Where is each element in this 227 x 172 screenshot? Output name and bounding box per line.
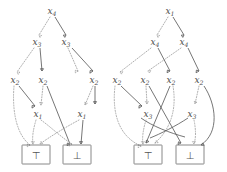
right-bdd-group: ⊤ ⊥ x1 x4 x4 x2 x2 x2 x2 x3 x3 bbox=[112, 6, 214, 164]
edge-high-R-a-R-e bbox=[158, 48, 170, 71]
node-L-a: x3 bbox=[32, 37, 41, 48]
arrowhead-low-R-b-R-d bbox=[148, 71, 151, 74]
node-R-r: x1 bbox=[165, 6, 174, 17]
node-R-d: x2 bbox=[140, 75, 149, 86]
edge-low-L-e-L-g bbox=[85, 86, 93, 105]
arrowhead-high-L-c-L-f bbox=[32, 105, 35, 108]
arrowhead-high-L-b-L-e bbox=[90, 71, 93, 74]
node-R-f: x2 bbox=[194, 75, 203, 86]
arrowhead-low-R-h-R-F bbox=[192, 142, 195, 144]
arrowhead-low-R-r-R-a bbox=[157, 35, 160, 37]
edge-high-R-c-R-g bbox=[121, 86, 142, 106]
arrowhead-high-R-c-R-g bbox=[139, 106, 142, 109]
edge-low-L-a-L-c bbox=[17, 48, 34, 72]
edge-high-L-b-L-e bbox=[72, 48, 93, 71]
edge-low-R-g-R-T bbox=[143, 120, 146, 144]
edge-low-R-h-R-F bbox=[194, 120, 196, 144]
edge-low-R-c-R-T bbox=[114, 86, 141, 146]
left-terminal-false-glyph: ⊥ bbox=[73, 150, 82, 161]
edge-low-L-f-L-T bbox=[33, 120, 36, 144]
arrowhead-high-R-a-R-e bbox=[167, 70, 170, 73]
edge-high-R-b-R-f bbox=[188, 48, 199, 71]
edge-low-L-r-L-a bbox=[39, 17, 50, 35]
edge-high-L-c-L-f bbox=[19, 86, 35, 106]
arrowhead-low-L-b-L-d bbox=[75, 70, 78, 73]
node-L-e: x2 bbox=[89, 75, 98, 86]
node-R-h: x3 bbox=[187, 109, 196, 120]
left-bdd-group: ⊤ ⊥ x4 x3 x3 x2 x2 x2 x1 x1 bbox=[10, 6, 98, 164]
edge-high-R-f-R-F bbox=[201, 86, 214, 145]
edge-high-L-g-L-F bbox=[81, 120, 83, 144]
edge-high-R-r-R-b bbox=[173, 17, 184, 35]
node-L-d: x2 bbox=[38, 75, 47, 86]
node-L-c: x2 bbox=[10, 75, 19, 86]
edge-low-L-b-L-d bbox=[68, 48, 78, 71]
node-R-g: x3 bbox=[143, 109, 152, 120]
node-R-e: x2 bbox=[166, 75, 175, 86]
right-terminal-true-glyph: ⊤ bbox=[144, 150, 153, 161]
edge-low-L-d-L-f bbox=[41, 86, 43, 105]
node-R-c: x2 bbox=[112, 75, 121, 86]
node-L-r: x4 bbox=[47, 6, 56, 17]
edge-low-R-b-R-d bbox=[148, 48, 181, 71]
right-terminal-false-glyph: ⊥ bbox=[186, 150, 195, 161]
edge-high-L-d-L-F bbox=[47, 86, 70, 144]
edge-low-R-f-R-h bbox=[195, 86, 199, 104]
arrowhead-low-L-r-L-a bbox=[39, 35, 42, 37]
edge-high-L-r-L-b bbox=[55, 17, 66, 35]
right-node-labels: x1 x4 x4 x2 x2 x2 x2 x3 x3 bbox=[112, 6, 203, 120]
node-L-f: x1 bbox=[33, 109, 42, 120]
arrowhead-high-R-e-R-T bbox=[146, 140, 149, 143]
edge-high-R-g-R-F bbox=[141, 118, 185, 137]
arrowhead-low-L-c-L-T bbox=[27, 144, 30, 147]
edge-low-R-a-R-c bbox=[120, 48, 151, 72]
left-terminal-true-glyph: ⊤ bbox=[32, 150, 41, 161]
node-L-b: x3 bbox=[61, 37, 70, 48]
bdd-canvas: ⊤ ⊥ x4 x3 x3 x2 x2 x2 x1 x1 bbox=[0, 0, 227, 172]
node-L-g: x1 bbox=[77, 109, 86, 120]
edge-low-L-c-L-T bbox=[14, 86, 30, 145]
arrowhead-low-L-a-L-c bbox=[17, 72, 20, 74]
node-R-a: x4 bbox=[150, 37, 159, 48]
edge-low-R-r-R-a bbox=[157, 17, 168, 35]
node-R-b: x4 bbox=[179, 37, 188, 48]
bdd-figure: ⊤ ⊥ x4 x3 x3 x2 x2 x2 x1 x1 bbox=[0, 0, 227, 172]
edge-high-L-a-L-d bbox=[40, 48, 42, 71]
arrowhead-low-R-a-R-c bbox=[120, 72, 123, 75]
arrowhead-high-R-b-R-f bbox=[196, 70, 199, 73]
